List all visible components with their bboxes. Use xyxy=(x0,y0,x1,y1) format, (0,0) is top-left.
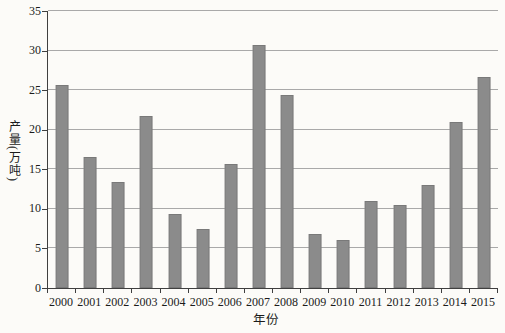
x-tick-label-2012: 2012 xyxy=(385,295,413,309)
bar-2011 xyxy=(365,201,378,288)
x-tick-mark-2 xyxy=(103,289,104,293)
y-tick-mark-10 xyxy=(42,209,47,210)
bar-2004 xyxy=(168,214,181,288)
bar-2007 xyxy=(252,45,265,288)
y-tick-mark-25 xyxy=(42,90,47,91)
x-tick-label-2013: 2013 xyxy=(413,295,441,309)
x-tick-mark-6 xyxy=(216,289,217,293)
x-tick-label-2014: 2014 xyxy=(441,295,469,309)
bar-2008 xyxy=(281,95,294,288)
x-tick-mark-0 xyxy=(47,289,48,293)
y-tick-label-15: 15 xyxy=(9,162,41,177)
bar-2015 xyxy=(477,77,490,288)
bar-2003 xyxy=(140,116,153,288)
x-tick-label-2011: 2011 xyxy=(356,295,384,309)
bar-2014 xyxy=(449,122,462,288)
bar-2005 xyxy=(196,229,209,288)
x-tick-label-2002: 2002 xyxy=(103,295,131,309)
x-tick-mark-13 xyxy=(413,289,414,293)
x-tick-mark-1 xyxy=(75,289,76,293)
bar-2010 xyxy=(337,240,350,288)
y-tick-label-0: 0 xyxy=(9,281,41,296)
y-tick-mark-20 xyxy=(42,130,47,131)
gridline-15 xyxy=(48,168,498,169)
bar-2013 xyxy=(421,185,434,288)
x-tick-label-2006: 2006 xyxy=(216,295,244,309)
gridline-35 xyxy=(48,10,498,11)
x-tick-mark-4 xyxy=(160,289,161,293)
bar-2009 xyxy=(309,234,322,288)
x-tick-label-2009: 2009 xyxy=(300,295,328,309)
y-tick-label-10: 10 xyxy=(9,201,41,216)
x-tick-mark-8 xyxy=(272,289,273,293)
bar-2001 xyxy=(84,157,97,288)
x-tick-mark-12 xyxy=(385,289,386,293)
y-tick-label-20: 20 xyxy=(9,122,41,137)
y-tick-mark-35 xyxy=(42,11,47,12)
x-tick-label-2001: 2001 xyxy=(75,295,103,309)
y-tick-label-5: 5 xyxy=(9,241,41,256)
x-tick-mark-15 xyxy=(469,289,470,293)
x-tick-label-2004: 2004 xyxy=(160,295,188,309)
y-tick-label-25: 25 xyxy=(9,83,41,98)
x-tick-label-2005: 2005 xyxy=(188,295,216,309)
gridline-30 xyxy=(48,50,498,51)
plot-area xyxy=(47,11,498,289)
x-axis-title: 年份 xyxy=(240,309,292,328)
y-tick-label-30: 30 xyxy=(9,43,41,58)
y-tick-mark-30 xyxy=(42,51,47,52)
x-tick-label-2007: 2007 xyxy=(244,295,272,309)
gridline-20 xyxy=(48,129,498,130)
x-tick-mark-16 xyxy=(497,289,498,293)
x-tick-label-2008: 2008 xyxy=(272,295,300,309)
bar-chart-figure: 产量(万吨) 05101520253035 200020012002200320… xyxy=(0,0,505,333)
x-tick-mark-9 xyxy=(300,289,301,293)
x-tick-label-2000: 2000 xyxy=(47,295,75,309)
x-tick-mark-14 xyxy=(441,289,442,293)
x-tick-mark-3 xyxy=(131,289,132,293)
x-tick-label-2003: 2003 xyxy=(131,295,159,309)
bar-2012 xyxy=(393,205,406,288)
x-tick-mark-7 xyxy=(244,289,245,293)
x-tick-label-2015: 2015 xyxy=(469,295,497,309)
bar-2002 xyxy=(112,182,125,288)
gridline-25 xyxy=(48,89,498,90)
x-tick-label-2010: 2010 xyxy=(328,295,356,309)
y-tick-label-35: 35 xyxy=(9,4,41,19)
bar-2006 xyxy=(224,164,237,288)
x-tick-mark-11 xyxy=(356,289,357,293)
y-tick-mark-15 xyxy=(42,169,47,170)
y-tick-mark-5 xyxy=(42,248,47,249)
x-tick-mark-5 xyxy=(188,289,189,293)
x-tick-mark-10 xyxy=(328,289,329,293)
bar-2000 xyxy=(56,85,69,288)
